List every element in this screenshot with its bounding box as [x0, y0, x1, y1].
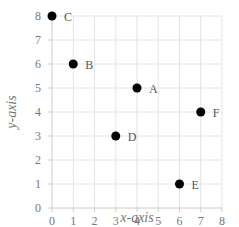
point-marker-icon	[196, 108, 205, 117]
y-tick-label: 0	[35, 201, 41, 215]
x-tick-label: 8	[219, 214, 225, 227]
y-tick-label: 2	[35, 153, 41, 167]
point-marker-icon	[175, 180, 184, 189]
point-label: E	[192, 178, 199, 192]
y-tick-label: 8	[35, 9, 41, 23]
point-marker-icon	[48, 12, 57, 21]
point-label: D	[128, 130, 137, 144]
point-label: B	[85, 58, 93, 72]
y-axis-label: y-axis	[4, 95, 19, 131]
x-tick-label: 7	[198, 214, 204, 227]
y-tick-label: 1	[35, 177, 41, 191]
point-marker-icon	[133, 84, 142, 93]
x-axis-label: x-axis	[119, 210, 154, 225]
point-label: C	[64, 10, 72, 24]
y-tick-label: 6	[35, 57, 41, 71]
y-tick-labels: 012345678	[35, 9, 41, 215]
x-tick-label: 5	[155, 214, 161, 227]
y-tick-label: 4	[35, 105, 41, 119]
x-tick-label: 1	[70, 214, 76, 227]
point-label: A	[149, 82, 158, 96]
y-tick-label: 7	[35, 33, 41, 47]
x-tick-label: 3	[113, 214, 119, 227]
scatter-chart: 012345678 012345678 CBAFDE x-axis y-axis	[0, 0, 239, 227]
y-tick-label: 5	[35, 81, 41, 95]
y-tick-label: 3	[35, 129, 41, 143]
x-tick-label: 2	[92, 214, 98, 227]
point-label: F	[213, 106, 220, 120]
x-tick-label: 0	[49, 214, 55, 227]
point-marker-icon	[69, 60, 78, 69]
point-marker-icon	[111, 132, 120, 141]
x-tick-label: 6	[177, 214, 183, 227]
